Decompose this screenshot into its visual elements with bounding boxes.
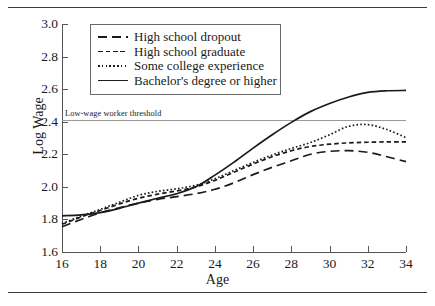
x-tick-label: 20: [123, 256, 153, 272]
series-line: [62, 142, 406, 224]
legend-line-swatch: [98, 46, 128, 58]
x-tick-label: 18: [85, 256, 115, 272]
legend-label: High school graduate: [134, 45, 245, 60]
x-axis-title: Age: [0, 272, 435, 288]
x-tick-label: 28: [276, 256, 306, 272]
legend-line-swatch: [98, 31, 128, 43]
top-rule: [8, 7, 427, 8]
x-tick-label: 30: [315, 256, 345, 272]
x-tick-label: 24: [200, 256, 230, 272]
series-line: [62, 90, 406, 215]
y-tick-label: 2.0: [24, 180, 58, 194]
y-tick-label: 1.8: [24, 212, 58, 226]
x-tick-label: 26: [238, 256, 268, 272]
y-tick: [62, 252, 68, 253]
x-tick: [406, 246, 407, 252]
figure-container: 1.61.82.02.22.42.62.83.0 161820222426283…: [0, 0, 435, 306]
x-tick-label: 16: [47, 256, 77, 272]
bottom-rule: [8, 292, 427, 293]
legend-item[interactable]: Bachelor's degree or higher: [98, 74, 273, 89]
series-line: [62, 124, 406, 223]
legend-box: High school dropoutHigh school graduateS…: [90, 24, 281, 95]
y-tick-label: 2.8: [24, 50, 58, 64]
legend-item[interactable]: High school dropout: [98, 30, 273, 45]
legend-label: Bachelor's degree or higher: [134, 74, 277, 89]
legend-line-swatch: [98, 75, 128, 87]
legend-line-swatch: [98, 60, 128, 72]
x-tick-label: 22: [162, 256, 192, 272]
legend-item[interactable]: Some college experience: [98, 59, 273, 74]
x-tick-label: 32: [353, 256, 383, 272]
y-tick-label: 3.0: [24, 17, 58, 31]
x-tick-label: 34: [391, 256, 421, 272]
y-axis-title: Log Wage: [31, 81, 47, 171]
legend-label: High school dropout: [134, 30, 241, 45]
legend-item[interactable]: High school graduate: [98, 45, 273, 60]
legend-label: Some college experience: [134, 59, 264, 74]
x-axis-line: [62, 252, 406, 253]
